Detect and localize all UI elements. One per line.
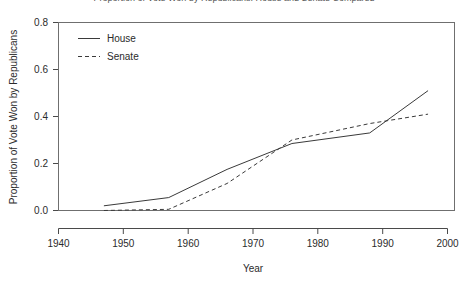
y-tick-label-0.6: 0.6	[34, 64, 48, 75]
line-chart-plot: 0.8 0.6 0.4 0.2 0.0 1940 1950 1960 1970 …	[0, 0, 468, 281]
series-line-senate	[104, 114, 428, 210]
y-tick-label-0.2: 0.2	[34, 158, 48, 169]
x-tick-label-1950: 1950	[112, 238, 135, 249]
x-tick-label-1970: 1970	[242, 238, 265, 249]
x-tick-label-2000: 2000	[436, 238, 459, 249]
chart-legend: House Senate	[78, 33, 139, 62]
x-axis-ticks	[59, 229, 448, 235]
x-tick-label-1990: 1990	[372, 238, 395, 249]
legend-label-senate: Senate	[107, 51, 139, 62]
x-tick-label-1960: 1960	[177, 238, 200, 249]
chart-figure: Proportion of Vote Won by Republicans: H…	[0, 0, 468, 281]
x-tick-label-1940: 1940	[47, 238, 70, 249]
y-tick-label-0.4: 0.4	[34, 111, 48, 122]
x-axis-title: Year	[243, 263, 264, 274]
x-tick-label-1980: 1980	[307, 238, 330, 249]
y-axis-title: Proportion of Vote Won by Republicans	[8, 30, 19, 204]
y-axis-ticks	[53, 23, 58, 211]
y-tick-label-0.0: 0.0	[34, 205, 48, 216]
series-line-house	[104, 91, 428, 206]
legend-label-house: House	[107, 33, 136, 44]
y-tick-label-0.8: 0.8	[34, 17, 48, 28]
